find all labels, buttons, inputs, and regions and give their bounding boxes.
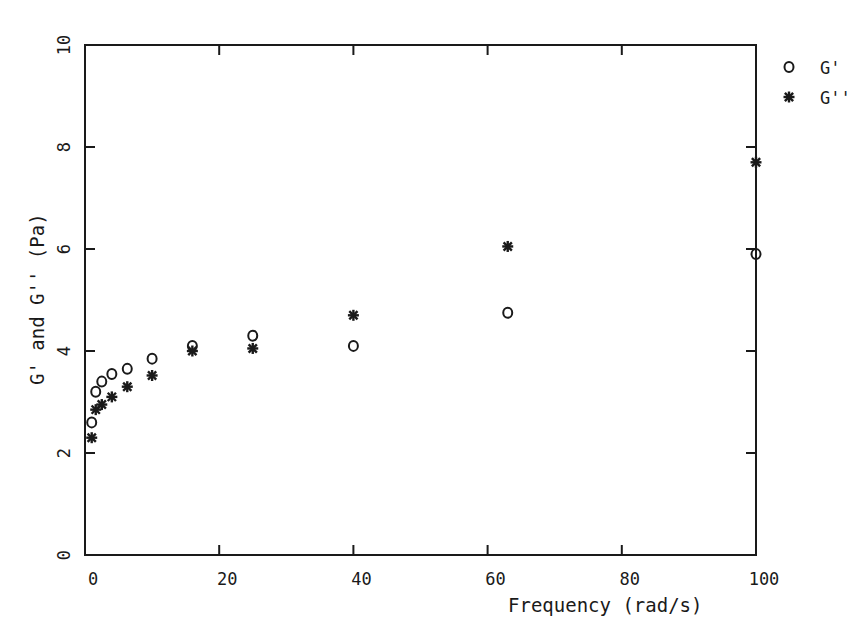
g-prime-point <box>97 377 106 387</box>
x-axis-label: Frequency (rad/s) <box>508 594 702 616</box>
axes-box <box>85 45 756 555</box>
y-tick-label: 4 <box>54 346 74 356</box>
x-tick-label: 20 <box>217 569 237 589</box>
g-double-prime-point <box>187 346 198 357</box>
x-tick-label: 60 <box>485 569 505 589</box>
legend-star-icon <box>784 92 795 103</box>
x-tick-label: 100 <box>749 569 780 589</box>
y-tick-label: 10 <box>54 35 74 55</box>
g-prime-point <box>91 387 100 397</box>
y-tick-label: 6 <box>54 244 74 254</box>
plot-frame <box>85 45 756 555</box>
x-tick-labels: 020406080100 <box>88 569 779 589</box>
y-axis-label: G' and G'' (Pa) <box>26 213 48 385</box>
legend: G'G'' <box>784 58 851 108</box>
y-tick-label: 8 <box>54 142 74 152</box>
g-prime-point <box>107 369 116 379</box>
g-prime-point <box>248 331 257 341</box>
x-tick-label: 80 <box>620 569 640 589</box>
g-double-prime-point <box>147 370 158 381</box>
chart: 020406080100 0246810 Frequency (rad/s) G… <box>0 0 867 632</box>
y-tick-label: 0 <box>54 550 74 560</box>
g-prime-point <box>148 354 157 364</box>
x-tick-label: 0 <box>88 569 98 589</box>
g-double-prime-point <box>247 343 258 354</box>
g-double-prime-point <box>86 432 97 443</box>
axis-ticks <box>85 45 756 555</box>
g-prime-point <box>123 364 132 374</box>
data-points <box>86 157 761 443</box>
g-double-prime-point <box>106 391 117 402</box>
legend-label: G'' <box>820 88 851 108</box>
legend-circle-icon <box>785 62 794 72</box>
g-double-prime-point <box>348 310 359 321</box>
g-prime-point <box>503 308 512 318</box>
g-double-prime-point <box>751 157 762 168</box>
y-tick-labels: 0246810 <box>54 35 74 560</box>
legend-label: G' <box>820 58 840 78</box>
g-prime-point <box>349 341 358 351</box>
x-tick-label: 40 <box>351 569 371 589</box>
g-double-prime-point <box>502 241 513 252</box>
g-double-prime-point <box>96 399 107 410</box>
g-double-prime-point <box>122 381 133 392</box>
g-prime-point <box>87 417 96 427</box>
y-tick-label: 2 <box>54 448 74 458</box>
